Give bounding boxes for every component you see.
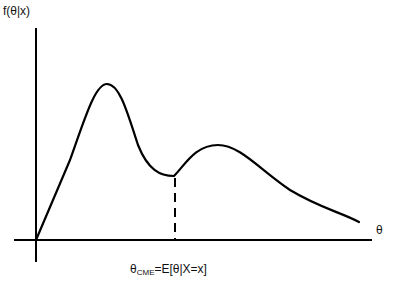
x-axis-label: θ: [376, 223, 383, 237]
y-axis-label: f(θ|x): [3, 4, 30, 18]
estimator-subscript: CME: [137, 268, 155, 277]
estimator-expression: =E[θ|X=x]: [154, 262, 206, 276]
density-curve: [36, 84, 359, 240]
posterior-diagram: [0, 0, 393, 290]
estimator-theta: θ: [130, 262, 137, 276]
estimator-label: θCME=E[θ|X=x]: [130, 262, 207, 277]
